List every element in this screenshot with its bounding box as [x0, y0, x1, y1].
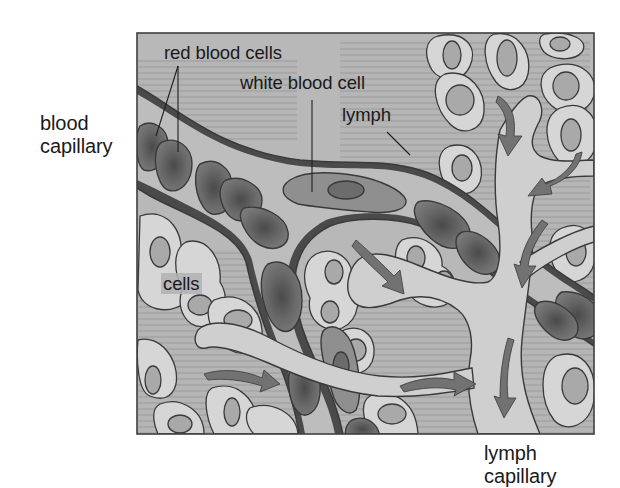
label-white-blood-cell: white blood cell [240, 72, 365, 93]
label-lymph: lymph [342, 104, 391, 125]
label-lymph-capillary: lymph capillary [484, 442, 556, 488]
label-blood-capillary: blood capillary [40, 112, 112, 158]
label-red-blood-cells: red blood cells [164, 42, 282, 63]
label-cells: cells [161, 273, 202, 294]
diagram-stage: blood capillary red blood cells white bl… [0, 0, 620, 488]
